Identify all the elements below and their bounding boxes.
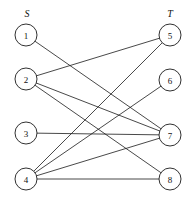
edge-4-7 <box>37 138 160 176</box>
edge-2-5 <box>37 38 160 76</box>
node-5[interactable]: 5 <box>159 24 181 46</box>
edge-4-5 <box>34 43 162 171</box>
node-label-3: 3 <box>24 129 29 139</box>
node-8[interactable]: 8 <box>159 168 181 190</box>
node-label-6: 6 <box>168 76 173 86</box>
node-7[interactable]: 7 <box>159 124 181 146</box>
node-label-2: 2 <box>24 75 29 85</box>
edges-group <box>34 38 162 179</box>
node-1[interactable]: 1 <box>15 24 37 46</box>
graph-canvas: 12345678 ST <box>0 0 192 210</box>
edge-3-7 <box>37 133 159 135</box>
node-label-4: 4 <box>24 175 29 185</box>
set-label-S: S <box>25 8 30 19</box>
node-2[interactable]: 2 <box>15 68 37 90</box>
edge-1-7 <box>35 41 161 128</box>
node-3[interactable]: 3 <box>15 122 37 144</box>
node-6[interactable]: 6 <box>159 69 181 91</box>
node-4[interactable]: 4 <box>15 168 37 190</box>
node-label-7: 7 <box>168 131 173 141</box>
node-label-5: 5 <box>168 31 173 41</box>
bipartite-graph-figure: 12345678 ST <box>0 0 192 210</box>
set-label-T: T <box>167 8 174 19</box>
node-label-8: 8 <box>168 175 173 185</box>
set-labels-group: ST <box>25 8 175 19</box>
node-label-1: 1 <box>24 31 29 41</box>
